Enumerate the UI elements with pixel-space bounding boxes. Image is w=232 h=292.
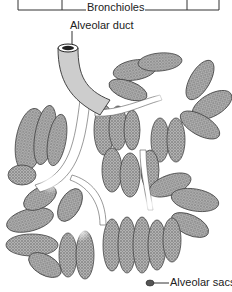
branch-junction [68, 218, 92, 242]
alveolar-sacs-label: Alveolar sacs [170, 276, 232, 288]
branch-junction [38, 170, 62, 194]
branch-junction [138, 193, 162, 217]
alveolar-duct-label: Alveolar duct [70, 19, 134, 31]
terminal-sac [146, 280, 154, 286]
alveolar-sac-clusters [4, 51, 232, 283]
alveolar-duct-tube [58, 44, 110, 115]
alveoli-illustration [0, 0, 232, 292]
branch-junction [153, 83, 177, 107]
bronchioles-label: Bronchioles [86, 1, 145, 13]
